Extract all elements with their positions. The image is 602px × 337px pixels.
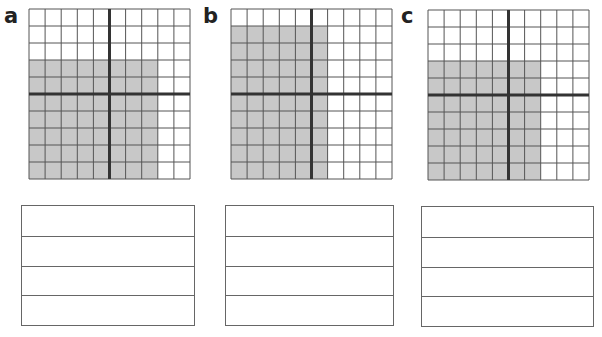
answer-line <box>422 237 593 238</box>
answer-line <box>422 296 593 297</box>
hundred-grid-b <box>230 8 393 180</box>
answer-line <box>22 236 194 237</box>
answer-line <box>422 267 593 268</box>
panel-label-c: c <box>401 6 413 27</box>
answer-box-b[interactable] <box>225 205 394 326</box>
answer-line <box>22 266 194 267</box>
panel-label-a: a <box>4 6 18 27</box>
grid-svg <box>230 8 393 180</box>
answer-line <box>226 295 393 296</box>
grid-svg <box>427 9 590 181</box>
hundred-grid-c <box>427 9 590 181</box>
answer-box-a[interactable] <box>21 205 195 326</box>
answer-line <box>226 236 393 237</box>
hundred-grid-a <box>28 8 191 180</box>
answer-line <box>22 295 194 296</box>
answer-box-c[interactable] <box>421 206 594 327</box>
panel-label-b: b <box>203 6 218 27</box>
grid-svg <box>28 8 191 180</box>
shaded-region <box>428 61 541 180</box>
answer-line <box>226 266 393 267</box>
